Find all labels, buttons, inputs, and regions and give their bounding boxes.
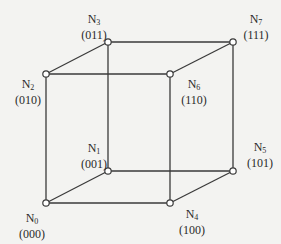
node-n0-circle-icon <box>43 200 49 206</box>
node-n2-circle-icon <box>43 71 49 77</box>
node-name: N6 <box>174 78 214 94</box>
node-label-n3: N3(011) <box>74 13 114 42</box>
node-name: N3 <box>74 13 114 29</box>
edge-n4-n5 <box>170 171 233 203</box>
node-label-n7: N7(111) <box>236 13 276 42</box>
node-name-subscript: 7 <box>258 18 262 27</box>
node-name: N5 <box>240 141 280 157</box>
node-name-subscript: 1 <box>96 147 100 156</box>
node-n5-circle-icon <box>230 168 236 174</box>
node-label-n2: N2(010) <box>8 78 48 107</box>
node-binary-code: (110) <box>174 94 214 107</box>
node-binary-code: (111) <box>236 29 276 42</box>
node-name: N7 <box>236 13 276 29</box>
node-binary-code: (011) <box>74 29 114 42</box>
node-name-subscript: 2 <box>30 83 34 92</box>
node-label-n0: N0(000) <box>12 212 52 241</box>
node-name: N1 <box>74 142 114 158</box>
node-binary-code: (100) <box>172 224 212 237</box>
node-name: N4 <box>172 208 212 224</box>
node-binary-code: (000) <box>12 228 52 241</box>
node-n6-circle-icon <box>167 71 173 77</box>
node-name-subscript: 4 <box>194 213 198 222</box>
node-binary-code: (101) <box>240 157 280 170</box>
node-n4-circle-icon <box>167 200 173 206</box>
node-label-n1: N1(001) <box>74 142 114 171</box>
edge-n6-n7 <box>170 42 233 74</box>
hypercube-diagram: N0(000)N1(001)N2(010)N3(011)N4(100)N5(10… <box>0 0 281 244</box>
node-name-subscript: 6 <box>196 83 200 92</box>
node-name: N0 <box>12 212 52 228</box>
node-label-n5: N5(101) <box>240 141 280 170</box>
edge-n2-n3 <box>46 42 108 74</box>
node-name-subscript: 5 <box>262 146 266 155</box>
node-label-n4: N4(100) <box>172 208 212 237</box>
edge-n0-n1 <box>46 171 108 203</box>
node-name: N2 <box>8 78 48 94</box>
node-binary-code: (010) <box>8 94 48 107</box>
node-name-subscript: 0 <box>34 217 38 226</box>
node-binary-code: (001) <box>74 158 114 171</box>
node-label-n6: N6(110) <box>174 78 214 107</box>
node-name-subscript: 3 <box>96 18 100 27</box>
